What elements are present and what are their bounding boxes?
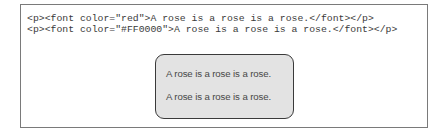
- rendered-line-hex-color: A rose is a rose is a rose.: [166, 91, 271, 102]
- rendered-line-named-color: A rose is a rose is a rose.: [166, 68, 271, 79]
- rendered-output-box: A rose is a rose is a rose. A rose is a …: [155, 54, 294, 119]
- code-line-hex-color: <p><font color="#FF0000">A rose is a ros…: [27, 24, 397, 35]
- code-line-named-color: <p><font color="red">A rose is a rose is…: [27, 13, 397, 24]
- figure-frame: <p><font color="red">A rose is a rose is…: [20, 4, 428, 128]
- code-example: <p><font color="red">A rose is a rose is…: [27, 13, 397, 35]
